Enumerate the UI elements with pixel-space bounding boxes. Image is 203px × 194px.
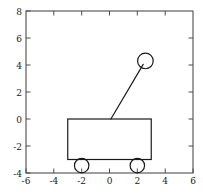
cart-pendulum-scene <box>68 53 153 173</box>
y-tick-label: -4 <box>13 169 22 179</box>
axis-box <box>26 11 193 173</box>
y-tick-label: 8 <box>16 7 22 17</box>
y-tick-label: -2 <box>13 142 22 152</box>
x-tick-label: -2 <box>77 176 86 186</box>
plot-canvas: -6 -4 -2 0 2 4 6 -4 -2 0 2 4 6 8 <box>0 0 203 194</box>
x-tick-label: -4 <box>49 176 58 186</box>
axes-frame <box>26 11 193 173</box>
y-tick-label: 2 <box>16 88 22 98</box>
y-tick-labels: -4 -2 0 2 4 6 8 <box>13 7 22 179</box>
cart-body <box>68 119 152 160</box>
pendulum-rod <box>111 64 143 119</box>
y-tick-label: 6 <box>16 34 22 44</box>
x-tick-label: 0 <box>107 176 113 186</box>
y-tick-label: 0 <box>16 115 22 125</box>
x-tick-label: 2 <box>134 176 140 186</box>
x-tick-label: -6 <box>22 176 31 186</box>
y-tick-marks <box>26 11 193 173</box>
y-tick-label: 4 <box>16 61 22 71</box>
x-tick-label: 6 <box>190 176 196 186</box>
pendulum-bob <box>138 53 154 69</box>
x-tick-labels: -6 -4 -2 0 2 4 6 <box>22 176 197 186</box>
chart-figure: -6 -4 -2 0 2 4 6 -4 -2 0 2 4 6 8 <box>0 0 203 194</box>
x-tick-label: 4 <box>162 176 168 186</box>
x-tick-marks <box>26 11 193 173</box>
